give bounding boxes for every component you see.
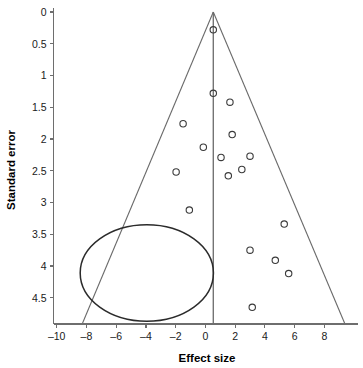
data-point-marker — [281, 221, 287, 227]
x-tick-label: 8 — [321, 330, 327, 342]
x-tick-label: –8 — [81, 330, 93, 342]
tick-labels-group: 00.511.522.533.544.5–10–8–6–4–202468 — [32, 6, 328, 342]
data-point-marker — [200, 144, 206, 150]
y-tick-label: 0 — [41, 6, 47, 18]
x-tick-label: 6 — [292, 330, 298, 342]
chart-canvas: 00.511.522.533.544.5–10–8–6–4–202468 Eff… — [0, 0, 363, 368]
x-axis-title: Effect size — [179, 352, 236, 364]
x-tick-label: 0 — [202, 330, 208, 342]
x-tick-label: –10 — [48, 330, 66, 342]
x-tick-label: 2 — [232, 330, 238, 342]
data-point-marker — [186, 207, 192, 213]
data-point-marker — [239, 166, 245, 172]
y-tick-label: 3 — [41, 196, 47, 208]
data-point-marker — [227, 99, 233, 105]
data-point-marker — [247, 153, 253, 159]
data-point-marker — [272, 257, 278, 263]
y-axis-title: Standard error — [5, 130, 17, 210]
y-tick-label: 0.5 — [32, 38, 47, 50]
data-point-marker — [225, 173, 231, 179]
funnel-left-line — [82, 12, 213, 324]
data-point-marker — [249, 304, 255, 310]
data-point-marker — [229, 131, 235, 137]
y-tick-label: 1.5 — [32, 101, 47, 113]
data-point-marker — [247, 247, 253, 253]
y-tick-label: 2 — [41, 133, 47, 145]
x-tick-label: 4 — [262, 330, 268, 342]
y-tick-label: 3.5 — [32, 228, 47, 240]
x-tick-label: –4 — [140, 330, 152, 342]
missing-studies-ellipse — [80, 225, 213, 322]
y-tick-label: 4.5 — [32, 292, 47, 304]
data-point-marker — [285, 270, 291, 276]
funnel-right-line — [213, 12, 345, 324]
funnel-annotations — [80, 12, 345, 324]
y-tick-label: 2.5 — [32, 165, 47, 177]
y-tick-label: 4 — [41, 260, 47, 272]
y-tick-label: 1 — [41, 69, 47, 81]
data-points-group — [173, 27, 292, 311]
data-point-marker — [218, 154, 224, 160]
axes-group — [50, 8, 359, 328]
data-point-marker — [173, 169, 179, 175]
data-point-marker — [180, 121, 186, 127]
funnel-plot: 00.511.522.533.544.5–10–8–6–4–202468 Eff… — [0, 0, 363, 368]
x-tick-label: –2 — [170, 330, 182, 342]
x-tick-label: –6 — [110, 330, 122, 342]
